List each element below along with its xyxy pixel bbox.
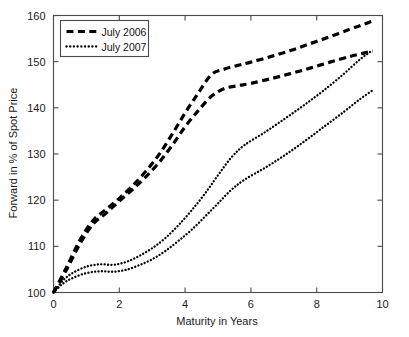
y-tick-label: 140	[27, 102, 45, 114]
x-tick-label: 4	[182, 298, 188, 310]
x-tick-label: 6	[248, 298, 254, 310]
x-tick-label: 0	[50, 298, 56, 310]
legend-label: July 2006	[102, 26, 147, 38]
y-tick-label: 110	[28, 240, 46, 252]
chart-figure: 100110120130140150160 0246810 Forward in…	[0, 0, 409, 337]
legend-label: July 2007	[102, 41, 147, 53]
y-tick-label: 150	[27, 56, 45, 68]
x-tick-label: 10	[376, 298, 388, 310]
chart-legend: July 2006July 2007	[61, 21, 149, 57]
y-tick-label: 100	[27, 287, 45, 299]
forward-curve-chart: 100110120130140150160 0246810 Forward in…	[0, 0, 409, 337]
y-tick-label: 130	[27, 148, 45, 160]
y-axis-title: Forward in % of Spot Price	[7, 88, 19, 219]
y-tick-label: 160	[27, 10, 45, 22]
x-tick-label: 8	[314, 298, 320, 310]
x-axis-title: Maturity in Years	[176, 315, 258, 327]
x-tick-label: 2	[116, 298, 122, 310]
y-tick-label: 120	[27, 194, 45, 206]
